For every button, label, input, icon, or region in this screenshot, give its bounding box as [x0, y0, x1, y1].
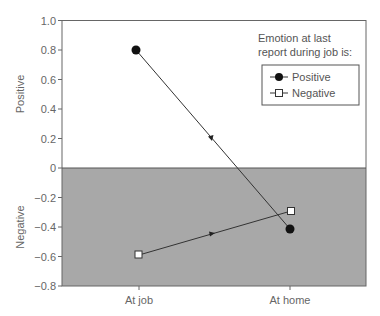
y-tick-label: 0.4 — [41, 103, 56, 115]
chart: 1.0 0.8 0.6 0.4 0.2 0 −0.2 −0.4 −0.6 −0.… — [0, 0, 380, 316]
y-tick-label: 0.6 — [41, 74, 56, 86]
legend-entry-negative: Negative — [292, 87, 335, 99]
point-negative-at-home — [288, 208, 295, 215]
y-tick-label: −0.8 — [34, 280, 56, 292]
legend-entry-positive: Positive — [292, 71, 331, 83]
y-tick-labels: 1.0 0.8 0.6 0.4 0.2 0 −0.2 −0.4 −0.6 −0.… — [34, 15, 56, 293]
arrow-icon — [208, 135, 214, 141]
y-tick-label: 0 — [50, 162, 56, 174]
y-tick-label: −0.6 — [34, 251, 56, 263]
x-tick-label: At home — [270, 294, 311, 306]
y-tick-label: 0.8 — [41, 44, 56, 56]
y-tick-label: 0.2 — [41, 133, 56, 145]
legend: Emotion at last report during job is: Po… — [258, 32, 359, 105]
y-axis — [58, 21, 62, 287]
x-tick-label: At job — [125, 294, 153, 306]
y-tick-label: −0.4 — [34, 221, 56, 233]
point-positive-at-job — [132, 46, 141, 55]
region-label-positive: Positive — [14, 75, 26, 114]
open-square-icon — [276, 90, 283, 97]
y-tick-label: 1.0 — [41, 15, 56, 27]
region-label-negative: Negative — [14, 205, 26, 248]
y-tick-label: −0.2 — [34, 192, 56, 204]
negative-region — [62, 168, 366, 286]
point-negative-at-job — [135, 251, 142, 258]
legend-title-line2: report during job is: — [258, 46, 352, 58]
point-positive-at-home — [286, 225, 295, 234]
filled-circle-icon — [275, 73, 283, 81]
legend-title-line1: Emotion at last — [258, 32, 331, 44]
